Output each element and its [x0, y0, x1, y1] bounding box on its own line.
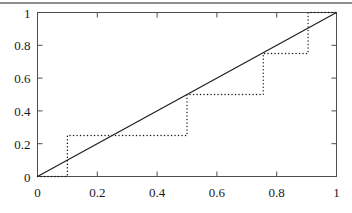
y-tick-label-5: 1	[0, 6, 31, 19]
x-tick-label-1: 0.2	[89, 186, 105, 199]
y-tick-label-1: 0.2	[0, 137, 31, 150]
x-tick-label-0: 0	[34, 186, 41, 199]
plot-area	[0, 0, 352, 213]
y-tick-label-4: 0.8	[0, 39, 31, 52]
x-tick-label-4: 0.8	[269, 186, 285, 199]
y-tick-label-3: 0.6	[0, 72, 31, 85]
x-tick-label-3: 0.6	[209, 186, 225, 199]
x-tick-label-5: 1	[333, 186, 340, 199]
x-tick-label-2: 0.4	[149, 186, 165, 199]
chart-figure: 00.20.40.60.81 00.20.40.60.81	[0, 0, 352, 213]
y-tick-label-0: 0	[0, 170, 31, 183]
y-tick-label-2: 0.4	[0, 104, 31, 117]
data-series	[38, 13, 337, 177]
